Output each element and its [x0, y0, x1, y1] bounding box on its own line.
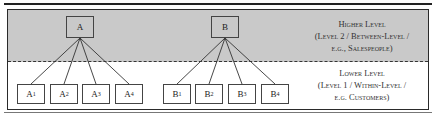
node-subscript: 4: [277, 91, 280, 97]
node-B: B: [211, 16, 239, 38]
node-subscript: 2: [66, 91, 69, 97]
label-line: e.g. Customers): [292, 91, 432, 103]
edge-B-B1: [177, 38, 225, 84]
node-subscript: 3: [244, 91, 247, 97]
node-subscript: 2: [211, 91, 214, 97]
node-B3: B3: [228, 84, 256, 104]
node-A2: A2: [50, 84, 78, 104]
edge-A-A4: [80, 38, 129, 84]
node-subscript: 1: [179, 91, 182, 97]
lower-level-label: Lower Level (Level 1 / Within-Level / e.…: [292, 67, 432, 103]
node-label: A: [77, 22, 84, 32]
node-A4: A4: [115, 84, 143, 104]
node-B2: B2: [195, 84, 223, 104]
node-B4: B4: [261, 84, 289, 104]
edge-B-B2: [209, 38, 225, 84]
edge-B-B3: [225, 38, 242, 84]
node-B1: B1: [163, 84, 191, 104]
node-subscript: 4: [131, 91, 134, 97]
label-line: (Level 2 / Between-Level /: [292, 30, 432, 42]
label-line: e.g., Salespeople): [292, 42, 432, 54]
node-label: B: [222, 22, 228, 32]
bottom-rule: [4, 112, 432, 113]
node-A3: A3: [82, 84, 110, 104]
label-line: Lower Level: [292, 67, 432, 79]
label-line: (Level 1 / Within-Level /: [292, 79, 432, 91]
node-subscript: 1: [33, 91, 36, 97]
node-subscript: 3: [98, 91, 101, 97]
node-A1: A1: [17, 84, 45, 104]
edge-A-A1: [31, 38, 80, 84]
higher-level-label: Higher Level (Level 2 / Between-Level / …: [292, 18, 432, 54]
edge-B-B4: [225, 38, 275, 84]
label-line: Higher Level: [292, 18, 432, 30]
node-A: A: [66, 16, 94, 38]
